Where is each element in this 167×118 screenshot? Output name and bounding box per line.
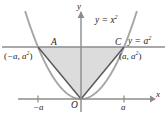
- coord-left-x: −a: [7, 51, 18, 61]
- point-a-coordinates-label: (−a, a2): [4, 52, 32, 61]
- x-axis-tick-label-negative-a: −a: [33, 103, 44, 112]
- horizontal-line-equation-label: y = a2: [128, 37, 151, 47]
- point-c-label: C: [115, 38, 121, 48]
- parabola-equation-label: y = x2: [95, 16, 118, 26]
- coord-left-close-paren: ): [29, 51, 32, 61]
- x-axis-tick-label-positive-a: a: [121, 103, 126, 112]
- y-axis-arrowhead: [78, 11, 85, 18]
- origin-label: O: [71, 101, 78, 111]
- horizontal-line-equation-text: y = a: [128, 36, 148, 46]
- horizontal-line-equation-exponent: 2: [148, 35, 151, 41]
- parabola-equation-text: y = x: [95, 15, 115, 25]
- coord-right-close-paren: ): [138, 51, 141, 61]
- y-axis-label: y: [77, 2, 81, 11]
- parabola-figure: y x y = x2 y = a2 A C (−a, a2) (a, a2) −…: [0, 0, 167, 118]
- point-a-label: A: [51, 38, 57, 48]
- x-axis-label: x: [156, 90, 160, 99]
- point-c-coordinates-label: (a, a2): [119, 52, 141, 61]
- parabola-equation-exponent: 2: [115, 14, 118, 20]
